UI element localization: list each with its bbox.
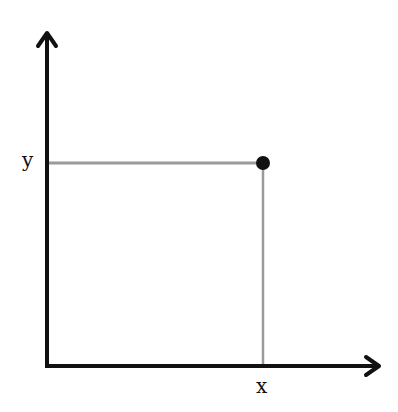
x-axis-label: x [256,374,268,398]
coordinate-diagram: y x [0,0,398,412]
data-point [256,156,270,170]
y-axis-label: y [21,148,34,172]
